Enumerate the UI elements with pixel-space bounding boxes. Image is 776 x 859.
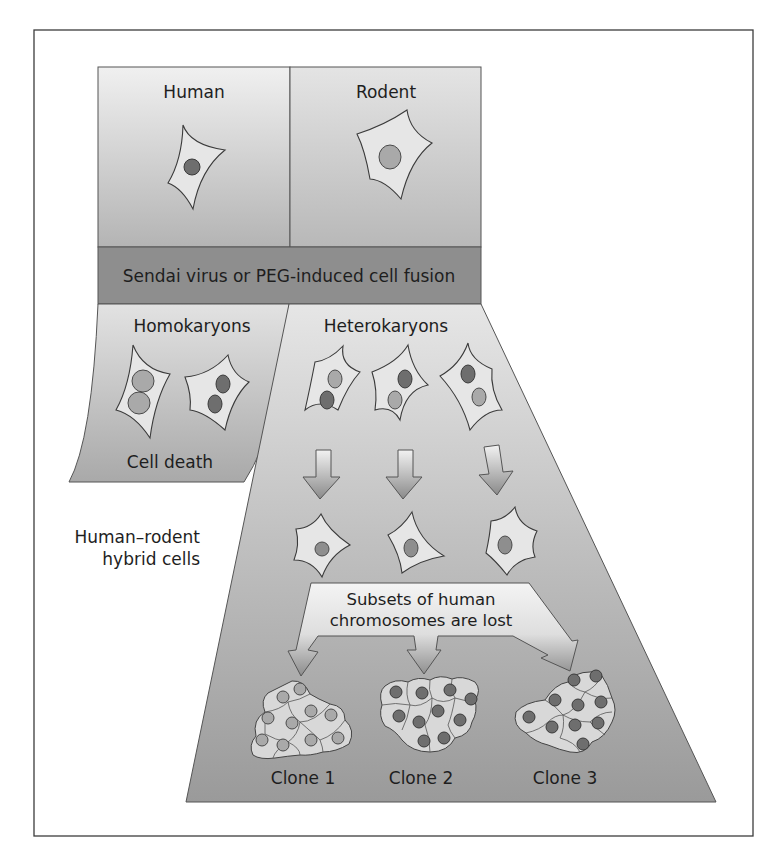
nucleus-light-icon	[277, 691, 289, 703]
hybrid-nucleus-icon	[315, 542, 329, 556]
nucleus-light-icon	[277, 739, 289, 751]
rodent-nucleus-icon	[379, 145, 401, 169]
nucleus-dark-icon	[595, 696, 607, 708]
clone-3-label: Clone 3	[533, 768, 597, 788]
cell-death-label: Cell death	[127, 452, 213, 472]
nucleus-dark-icon	[465, 693, 477, 705]
nucleus-dark-icon	[418, 735, 430, 747]
hybrid-nucleus-icon	[404, 539, 418, 557]
hybrid-label-line2: hybrid cells	[102, 549, 200, 569]
hybrid-nucleus-icon	[498, 536, 512, 554]
fusion-band: Sendai virus or PEG-induced cell fusion	[98, 247, 481, 304]
human-label: Human	[163, 82, 224, 102]
nucleus-dark-icon	[398, 370, 412, 388]
nucleus-light-icon	[328, 370, 342, 388]
figure-canvas: Human Rodent Sendai virus or PEG-induced…	[0, 0, 776, 859]
rodent-panel: Rodent	[290, 67, 481, 247]
nucleus-light-icon	[305, 734, 317, 746]
nucleus-dark-icon	[413, 716, 425, 728]
rodent-label: Rodent	[356, 82, 416, 102]
clone-1-label: Clone 1	[271, 768, 335, 788]
nucleus-dark-icon	[208, 395, 222, 413]
nucleus-light-icon	[305, 705, 317, 717]
nucleus-light-icon	[262, 712, 274, 724]
nucleus-dark-icon	[444, 684, 456, 696]
chromosome-loss-label-line2: chromosomes are lost	[330, 611, 513, 630]
nucleus-light-icon	[256, 734, 268, 746]
nucleus-light-icon	[472, 388, 486, 406]
nucleus-light-icon	[325, 709, 337, 721]
nucleus-dark-icon	[549, 694, 561, 706]
nucleus-dark-icon	[590, 670, 602, 682]
nucleus-dark-icon	[320, 391, 334, 409]
nucleus-dark-icon	[546, 721, 558, 733]
nucleus-dark-icon	[568, 674, 580, 686]
nucleus-dark-icon	[393, 710, 405, 722]
nucleus-dark-icon	[432, 705, 444, 717]
nucleus-dark-icon	[390, 686, 402, 698]
heterokaryons-label: Heterokaryons	[324, 316, 449, 336]
homokaryon-panel: Homokaryons Cell death	[69, 304, 289, 482]
nucleus-dark-icon	[416, 687, 428, 699]
nucleus-dark-icon	[523, 711, 535, 723]
nucleus-dark-icon	[438, 732, 450, 744]
nucleus-light-icon	[128, 392, 150, 414]
human-nucleus-icon	[184, 159, 200, 175]
hybrid-label-line1: Human–rodent	[74, 527, 200, 547]
nucleus-dark-icon	[577, 738, 589, 750]
homokaryons-label: Homokaryons	[133, 316, 250, 336]
nucleus-light-icon	[286, 717, 298, 729]
fusion-label: Sendai virus or PEG-induced cell fusion	[123, 266, 456, 286]
figure: Human Rodent Sendai virus or PEG-induced…	[0, 0, 776, 859]
nucleus-dark-icon	[216, 375, 230, 393]
nucleus-dark-icon	[461, 365, 475, 383]
chromosome-loss-label-line1: Subsets of human	[346, 590, 495, 609]
nucleus-light-icon	[132, 370, 154, 392]
nucleus-dark-icon	[569, 719, 581, 731]
nucleus-dark-icon	[572, 699, 584, 711]
nucleus-light-icon	[388, 391, 402, 409]
nucleus-light-icon	[294, 683, 306, 695]
nucleus-dark-icon	[454, 714, 466, 726]
nucleus-light-icon	[332, 732, 344, 744]
clone-2-label: Clone 2	[389, 768, 453, 788]
human-panel: Human	[98, 67, 290, 247]
nucleus-dark-icon	[592, 717, 604, 729]
